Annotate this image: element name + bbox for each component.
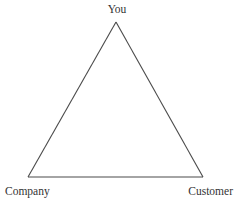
edge-you-company	[28, 22, 116, 177]
node-label-customer: Customer	[188, 185, 233, 197]
node-label-company: Company	[5, 185, 50, 198]
node-label-you: You	[108, 3, 127, 15]
diagram-canvas: You Company Customer	[0, 0, 244, 206]
triangle-diagram: You Company Customer	[0, 0, 244, 206]
edge-you-customer	[116, 22, 203, 177]
triangle-shape	[28, 22, 203, 177]
